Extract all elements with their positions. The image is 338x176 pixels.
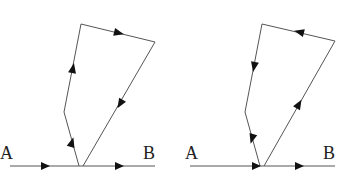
left-loop-path [64,24,155,166]
right-loop-path [245,24,335,166]
arrow-up-icon [293,98,305,111]
left-diagram: A B [0,24,155,170]
arrow-up-icon [67,136,77,148]
arrow-down-icon [114,98,126,111]
arrow-right-icon [295,162,304,170]
left-label-b: B [143,143,155,163]
arrow-down-icon [247,133,257,145]
right-label-a: A [185,143,198,163]
right-diagram: A B [185,24,335,170]
left-label-a: A [0,143,13,163]
arrow-right-icon [113,28,125,38]
arrow-right-icon [41,162,50,170]
right-label-b: B [323,143,335,163]
diagram-canvas: A B A B [0,0,338,176]
arrow-right-icon [115,162,124,170]
arrow-down-icon [249,61,259,72]
